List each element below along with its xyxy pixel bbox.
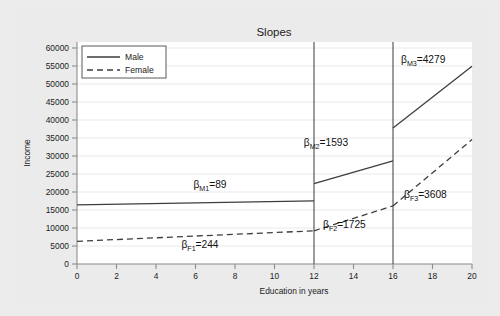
legend-label-female: Female [125, 65, 154, 75]
legend-label-male: Male [125, 52, 144, 62]
annotation-subscript: M2 [310, 143, 320, 151]
y-tick-label: 30000 [46, 151, 70, 161]
annotation-value: =4279 [417, 54, 446, 65]
x-tick-label: 16 [388, 271, 398, 281]
slopes-chart-svg: 60000 55000 50000 45000 40000 35000 3000… [0, 0, 500, 316]
annotation-subscript: F2 [329, 225, 337, 233]
y-tick-label: 60000 [46, 43, 70, 53]
y-axis-tick-labels: 60000 55000 50000 45000 40000 35000 3000… [46, 43, 70, 269]
y-tick-label: 15000 [46, 205, 70, 215]
annotation-subscript: F3 [410, 195, 418, 203]
y-tick-label: 55000 [46, 61, 70, 71]
x-tick-label: 8 [233, 271, 238, 281]
y-tick-label: 45000 [46, 97, 70, 107]
y-tick-label: 50000 [46, 79, 70, 89]
x-tick-label: 18 [428, 271, 438, 281]
y-tick-label: 35000 [46, 133, 70, 143]
x-tick-label: 0 [75, 271, 80, 281]
annotation-value: =1725 [337, 219, 366, 230]
annotation-value: =3608 [418, 189, 447, 200]
x-axis-title: Education in years [260, 286, 329, 296]
x-tick-label: 6 [193, 271, 198, 281]
y-axis-ticks [72, 48, 77, 264]
x-tick-label: 10 [270, 271, 280, 281]
y-tick-label: 40000 [46, 115, 70, 125]
y-tick-label: 0 [64, 259, 69, 269]
y-tick-label: 25000 [46, 169, 70, 179]
x-tick-label: 14 [349, 271, 359, 281]
annotation-value: =1593 [320, 137, 349, 148]
chart-legend[interactable]: Male Female [82, 46, 166, 78]
x-tick-label: 12 [309, 271, 319, 281]
x-tick-label: 4 [154, 271, 159, 281]
annotation-subscript: M3 [407, 60, 417, 68]
annotation-value: =89 [209, 179, 227, 190]
x-tick-label: 20 [467, 271, 477, 281]
annotation-value: =244 [196, 239, 219, 250]
chart-figure: 60000 55000 50000 45000 40000 35000 3000… [0, 0, 500, 316]
annotation-subscript: M1 [199, 185, 209, 193]
x-axis-ticks [77, 264, 472, 269]
chart-title: Slopes [256, 26, 291, 38]
y-tick-label: 20000 [46, 187, 70, 197]
annotation-subscript: F1 [187, 245, 195, 253]
y-axis-title: Income [22, 139, 32, 167]
y-tick-label: 10000 [46, 223, 70, 233]
x-tick-label: 2 [114, 271, 119, 281]
x-axis-tick-labels: 0 2 4 6 8 10 12 14 16 18 20 [75, 271, 477, 281]
y-tick-label: 5000 [50, 241, 69, 251]
